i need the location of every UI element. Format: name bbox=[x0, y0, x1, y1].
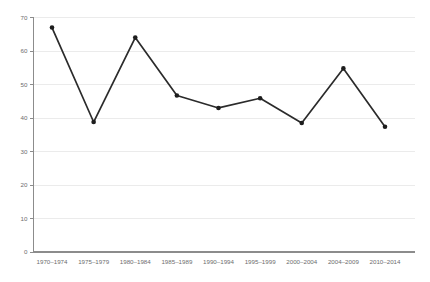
y-tick-label: 20 bbox=[21, 181, 28, 188]
x-tick-label: 2004–2009 bbox=[328, 258, 360, 265]
data-point bbox=[133, 35, 138, 40]
x-tick-label: 1980–1984 bbox=[120, 258, 152, 265]
series-line bbox=[52, 28, 385, 127]
x-tick-label: 2000–2004 bbox=[286, 258, 318, 265]
y-tick-label: 10 bbox=[21, 215, 28, 222]
data-point bbox=[383, 124, 388, 129]
data-point bbox=[175, 93, 180, 98]
gridlines bbox=[34, 18, 416, 219]
data-point bbox=[91, 120, 96, 125]
chart-canvas: 010203040506070 1970–19741975–19791980–1… bbox=[0, 0, 430, 282]
x-tick-label: 1975–1979 bbox=[78, 258, 110, 265]
y-tick-label: 0 bbox=[24, 248, 28, 255]
x-axis-tick-labels: 1970–19741975–19791980–19841985–19891990… bbox=[37, 258, 402, 265]
x-tick-label: 1990–1994 bbox=[203, 258, 235, 265]
data-point bbox=[216, 106, 221, 111]
y-tick-label: 50 bbox=[21, 81, 28, 88]
y-tick-label: 30 bbox=[21, 148, 28, 155]
y-tick-label: 70 bbox=[21, 14, 28, 21]
data-point bbox=[341, 66, 346, 71]
y-tick-label: 60 bbox=[21, 47, 28, 54]
data-point bbox=[299, 121, 304, 126]
y-tick-label: 40 bbox=[21, 114, 28, 121]
x-tick-label: 1985–1989 bbox=[161, 258, 193, 265]
x-tick-label: 2010–2014 bbox=[370, 258, 402, 265]
data-point bbox=[258, 96, 263, 101]
x-tick-label: 1970–1974 bbox=[37, 258, 69, 265]
data-point bbox=[50, 25, 55, 30]
y-axis-tick-labels: 010203040506070 bbox=[21, 14, 28, 256]
x-tick-label: 1995–1999 bbox=[245, 258, 277, 265]
line-chart: 010203040506070 1970–19741975–19791980–1… bbox=[0, 0, 430, 282]
